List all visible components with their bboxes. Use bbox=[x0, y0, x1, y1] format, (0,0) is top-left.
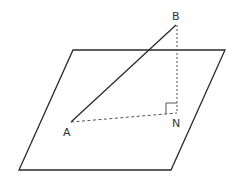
label-a: A bbox=[63, 126, 71, 139]
geometry-diagram: A B N bbox=[0, 0, 236, 180]
plane bbox=[19, 50, 225, 170]
segment-ab bbox=[71, 25, 176, 122]
right-angle-marker bbox=[166, 103, 177, 114]
segment-an-projection bbox=[71, 113, 177, 122]
label-b: B bbox=[172, 10, 180, 23]
label-n: N bbox=[172, 117, 180, 130]
